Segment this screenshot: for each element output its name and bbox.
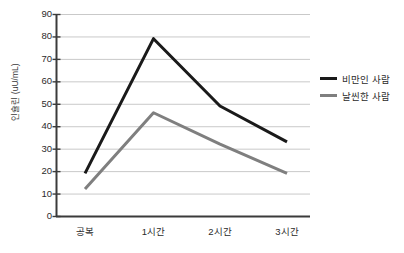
chart-legend: 비만인 사람날씬한 사람: [320, 70, 404, 104]
legend-swatch: [320, 77, 337, 80]
plot-area: [0, 0, 404, 253]
axis-lines: [56, 14, 310, 217]
line-chart: 인슐린 (uU/mL) 9080706050403020100 공복1시간2시간…: [0, 0, 404, 253]
legend-item[interactable]: 날씬한 사람: [320, 87, 404, 104]
x-tick-label: 2시간: [185, 224, 255, 238]
legend-label: 날씬한 사람: [342, 89, 390, 103]
data-series: [85, 39, 287, 189]
x-tick-label: 공복: [50, 224, 120, 238]
legend-swatch: [320, 94, 337, 97]
legend-label: 비만인 사람: [342, 72, 390, 86]
x-tick-label: 3시간: [252, 224, 322, 238]
x-tick-label: 1시간: [119, 224, 189, 238]
legend-item[interactable]: 비만인 사람: [320, 70, 404, 87]
